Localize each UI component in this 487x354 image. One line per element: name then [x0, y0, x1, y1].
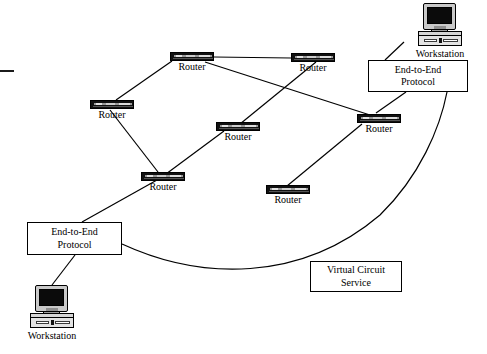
node-workstation-bottom-left[interactable]: Workstation: [22, 285, 82, 342]
link-router-top-left-to-router-right: [205, 62, 370, 115]
router-label: Router: [90, 109, 134, 121]
router-chassis-icon: [90, 100, 134, 109]
node-router-top-left[interactable]: Router: [170, 52, 214, 73]
node-router-lower-left[interactable]: Router: [141, 172, 185, 193]
link-router-lower-center-to-router-right: [287, 124, 362, 186]
box-end-to-end-protocol-top-right[interactable]: End-to-End Protocol: [368, 60, 468, 92]
link-end-to-end-protocol-bottom-left-to-workstation-bottom-left: [52, 255, 75, 285]
workstation-label: Workstation: [22, 330, 82, 342]
router-label: Router: [141, 181, 185, 193]
left-edge-tick-mark: [0, 70, 14, 72]
router-chassis-icon: [291, 53, 335, 62]
workstation-computer-icon: [417, 3, 463, 47]
link-end-to-end-protocol-top-right-to-workstation-top-right: [385, 42, 404, 60]
workstation-label: Workstation: [410, 48, 470, 60]
box-label: End-to-End Protocol: [49, 226, 100, 251]
router-label: Router: [170, 61, 214, 73]
node-workstation-top-right[interactable]: Workstation: [410, 3, 470, 60]
router-chassis-icon: [266, 185, 310, 194]
link-router-top-left-to-router-left: [116, 61, 172, 100]
node-router-center[interactable]: Router: [216, 122, 260, 143]
router-label: Router: [357, 123, 401, 135]
node-router-top-right[interactable]: Router: [291, 53, 335, 74]
node-router-lower-center[interactable]: Router: [266, 185, 310, 206]
link-router-right-to-end-to-end-protocol-top-right: [376, 92, 406, 113]
router-label: Router: [291, 62, 335, 74]
workstation-computer-icon: [29, 285, 75, 329]
router-chassis-icon: [170, 52, 214, 61]
router-chassis-icon: [216, 122, 260, 131]
box-virtual-circuit-service[interactable]: Virtual Circuit Service: [310, 261, 402, 292]
node-router-right[interactable]: Router: [357, 114, 401, 135]
node-router-left[interactable]: Router: [90, 100, 134, 121]
router-chassis-icon: [141, 172, 185, 181]
router-chassis-icon: [357, 114, 401, 123]
link-router-top-left-to-router-top-right: [214, 57, 291, 58]
router-label: Router: [216, 131, 260, 143]
box-end-to-end-protocol-bottom-left[interactable]: End-to-End Protocol: [27, 222, 122, 255]
router-label: Router: [266, 194, 310, 206]
box-label: End-to-End Protocol: [393, 64, 444, 89]
box-label: Virtual Circuit Service: [325, 264, 387, 289]
